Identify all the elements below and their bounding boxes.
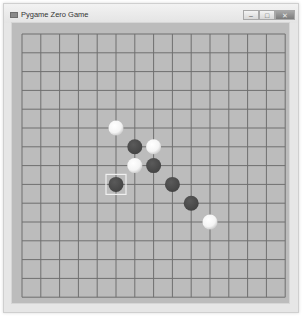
white-stone [127,158,142,173]
black-stone [165,177,180,192]
black-stone [127,139,142,154]
black-stone [184,196,199,211]
black-stone [146,158,161,173]
white-stone [109,121,124,136]
white-stone [203,215,218,230]
black-stone [109,177,124,192]
board-canvas[interactable] [0,0,302,323]
white-stone [146,139,161,154]
